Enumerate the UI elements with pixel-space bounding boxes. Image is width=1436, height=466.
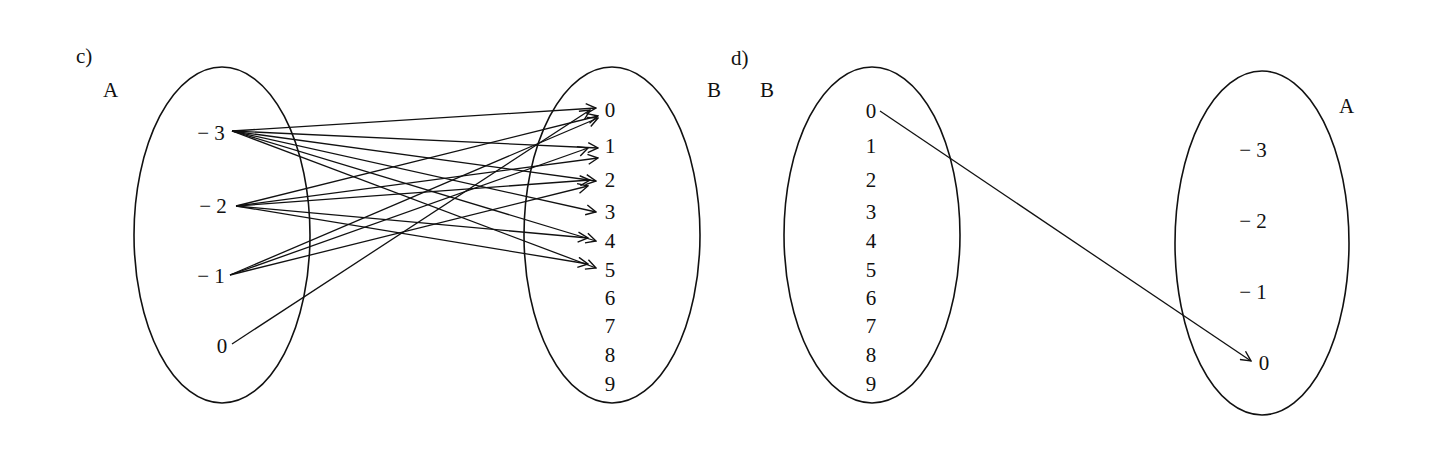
edge-neg3-2 <box>232 131 596 181</box>
set-element: 0 <box>866 101 877 122</box>
set-element: 3 <box>866 202 877 223</box>
edges-c <box>230 108 598 344</box>
set-element: 5 <box>605 260 616 281</box>
set-element: − 3 <box>197 123 225 144</box>
edge-0-0 <box>232 110 590 344</box>
set-a-name-c: A <box>103 80 118 101</box>
edge-neg3-1 <box>232 131 598 148</box>
set-b-name-d: B <box>760 80 774 101</box>
panel-d-label: d) <box>731 48 749 69</box>
set-element: 8 <box>605 345 616 366</box>
edge-d-0-0 <box>880 111 1251 361</box>
set-element: − 1 <box>1239 282 1267 303</box>
set-element: − 2 <box>199 196 227 217</box>
edge-neg2-1 <box>236 158 598 206</box>
set-element: 6 <box>605 288 616 309</box>
set-element: 9 <box>605 374 616 395</box>
panel-c-label: c) <box>76 46 92 67</box>
set-element: 0 <box>1259 353 1270 374</box>
set-element: − 1 <box>197 266 225 287</box>
set-element: 0 <box>605 100 616 121</box>
set-element: 0 <box>217 336 228 357</box>
set-element: 1 <box>605 136 616 157</box>
set-element: 2 <box>866 170 877 191</box>
set-element: − 2 <box>1239 211 1267 232</box>
set-element: − 3 <box>1239 140 1267 161</box>
set-element: 1 <box>866 136 877 157</box>
set-element: 6 <box>866 288 877 309</box>
edge-neg2-5 <box>236 206 588 264</box>
set-element: 7 <box>866 316 877 337</box>
set-element: 8 <box>866 345 877 366</box>
set-element: 7 <box>605 316 616 337</box>
relation-diagram <box>0 0 1436 466</box>
set-element: 4 <box>605 231 616 252</box>
set-a-name-d: A <box>1339 96 1354 117</box>
set-element: 2 <box>605 170 616 191</box>
set-element: 9 <box>866 374 877 395</box>
edge-neg1-1 <box>230 148 588 275</box>
set-element: 4 <box>866 231 877 252</box>
set-element: 5 <box>866 260 877 281</box>
set-element: 3 <box>605 202 616 223</box>
set-b-name-c: B <box>707 80 721 101</box>
